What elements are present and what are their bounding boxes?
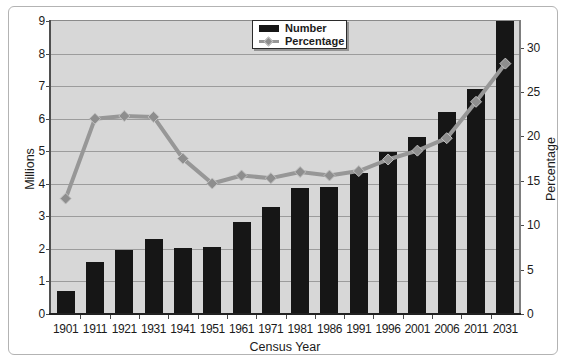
left-tick-7: 7 xyxy=(15,80,45,92)
left-tick-9: 9 xyxy=(15,15,45,27)
left-tick-0: 0 xyxy=(15,308,45,320)
right-tick-mark xyxy=(521,92,524,93)
x-tick-mark xyxy=(286,315,287,319)
right-tick-30: 30 xyxy=(527,42,557,54)
percentage-line xyxy=(66,64,506,199)
right-tick-mark xyxy=(521,270,524,271)
x-tick-mark xyxy=(110,315,111,319)
x-tick-mark xyxy=(491,315,492,319)
left-tick-mark xyxy=(46,216,49,217)
percentage-line-layer xyxy=(51,21,520,314)
x-tick-mark xyxy=(80,315,81,319)
x-tick-mark xyxy=(461,315,462,319)
x-tick-2031: 2031 xyxy=(485,323,525,335)
left-tick-1: 1 xyxy=(15,275,45,287)
left-tick-mark xyxy=(46,54,49,55)
legend-label-percentage: Percentage xyxy=(285,36,344,47)
x-tick-mark xyxy=(373,315,374,319)
right-axis-title: Percentage xyxy=(544,141,558,201)
x-tick-mark xyxy=(315,315,316,319)
bar-swatch-icon xyxy=(259,25,279,32)
legend-item-percentage: Percentage xyxy=(259,36,346,47)
right-tick-mark xyxy=(521,181,524,182)
right-tick-5: 5 xyxy=(527,264,557,276)
x-tick-mark xyxy=(256,315,257,319)
left-tick-2: 2 xyxy=(15,243,45,255)
x-tick-mark xyxy=(198,315,199,319)
x-axis-title: Census Year xyxy=(185,340,385,354)
legend-label-number: Number xyxy=(285,23,327,34)
left-axis-spine xyxy=(49,20,51,314)
left-tick-3: 3 xyxy=(15,210,45,222)
legend: Number Percentage xyxy=(252,20,347,49)
diamond-marker-icon xyxy=(264,36,274,46)
legend-item-number: Number xyxy=(259,23,346,34)
figure-frame: 0123456789 051015202530 1901191119211931… xyxy=(8,6,558,355)
marker-2001 xyxy=(412,145,423,156)
right-tick-10: 10 xyxy=(527,219,557,231)
left-tick-8: 8 xyxy=(15,48,45,60)
right-axis-spine xyxy=(519,20,521,315)
marker-1901 xyxy=(60,193,71,204)
marker-1996 xyxy=(383,154,394,165)
left-tick-mark xyxy=(46,86,49,87)
marker-1911 xyxy=(89,113,100,124)
marker-1921 xyxy=(119,111,130,122)
left-tick-mark xyxy=(46,314,49,315)
x-tick-mark xyxy=(168,315,169,319)
x-tick-mark xyxy=(227,315,228,319)
left-tick-6: 6 xyxy=(15,113,45,125)
marker-1986 xyxy=(324,170,335,181)
left-axis-title: Millions xyxy=(23,139,37,199)
left-tick-mark xyxy=(46,281,49,282)
left-tick-mark xyxy=(46,21,49,22)
left-tick-mark xyxy=(46,249,49,250)
plot-area xyxy=(51,21,520,314)
right-tick-mark xyxy=(521,225,524,226)
line-diamond-swatch-icon xyxy=(259,37,279,46)
x-tick-mark xyxy=(403,315,404,319)
marker-1961 xyxy=(236,170,247,181)
left-tick-mark xyxy=(46,119,49,120)
left-tick-mark xyxy=(46,184,49,185)
right-tick-mark xyxy=(521,314,524,315)
marker-1971 xyxy=(265,173,276,184)
x-tick-mark xyxy=(432,315,433,319)
marker-1991 xyxy=(353,166,364,177)
right-tick-25: 25 xyxy=(527,86,557,98)
left-tick-mark xyxy=(46,151,49,152)
x-tick-mark xyxy=(139,315,140,319)
right-tick-0: 0 xyxy=(527,308,557,320)
right-tick-mark xyxy=(521,136,524,137)
right-tick-mark xyxy=(521,48,524,49)
marker-1981 xyxy=(295,166,306,177)
chart-figure: 0123456789 051015202530 1901191119211931… xyxy=(0,0,565,361)
x-tick-mark xyxy=(344,315,345,319)
